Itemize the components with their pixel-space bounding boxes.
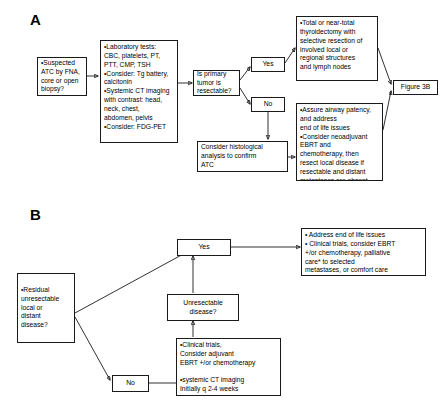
- node-branch-no-b: No: [112, 375, 149, 392]
- node-histological-analysis: Consider histological analysis to confir…: [197, 141, 288, 172]
- node-initial-workup: •Laboratory tests: CBC, platelets, PT, P…: [100, 40, 178, 143]
- node-branch-yes-b: Yes: [177, 239, 231, 256]
- edge-residual-to-no: [75, 317, 110, 380]
- node-end-of-life-care: • Address end of life issues • Clinical …: [301, 228, 426, 276]
- node-branch-no-a: No: [251, 97, 285, 112]
- panel-label-b: B: [30, 207, 41, 222]
- node-residual-disease: •Residual unresectable local or distant …: [17, 273, 75, 343]
- flowchart-canvas: A •Suspected ATC by FNA, core or open bi…: [0, 0, 441, 404]
- edge-surgery-to-figureref: [378, 48, 391, 84]
- node-adjuvant-surveillance: •Clinical trials, Consider adjuvant EBRT…: [176, 338, 281, 396]
- edge-decision-to-no: [240, 88, 250, 104]
- node-airway-neoadjuvant: •Assure airway patency, and address end …: [296, 103, 383, 181]
- edge-decision-to-yes: [240, 67, 250, 80]
- node-decision-primary-resectable: Is primary tumor is resectable?: [193, 70, 240, 96]
- node-figure-3b-reference: Figure 3B: [393, 80, 438, 95]
- edge-palliative-to-figureref: [383, 91, 391, 130]
- node-surgical-resection: •Total or near-total thyroidectomy with …: [296, 16, 378, 81]
- node-decision-unresectable: Unresectable disease?: [167, 294, 239, 321]
- edge-yes-to-surgery: [285, 48, 295, 63]
- panel-label-a: A: [30, 12, 41, 27]
- node-suspected-atc: •Suspected ATC by FNA, core or open biop…: [37, 57, 87, 96]
- node-branch-yes-a: Yes: [251, 57, 285, 72]
